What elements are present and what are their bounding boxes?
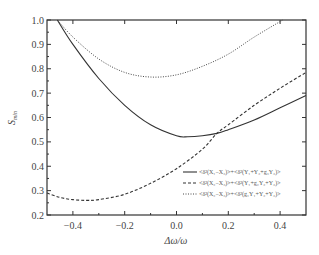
y-tick-label: 0.9 [32, 39, 45, 50]
y-tick-label: 0.6 [32, 112, 45, 123]
x-tick-label: 0.4 [274, 220, 287, 231]
axis-ticks: 0.20.30.40.50.60.70.80.91.0−0.4−0.20.00.… [32, 15, 307, 232]
series-line-solid [57, 20, 306, 137]
y-tick-label: 0.5 [32, 136, 45, 147]
y-tick-label: 0.2 [32, 210, 45, 221]
y-axis-label: Smin [6, 111, 18, 125]
x-axis-label: Δω/ω [164, 235, 188, 246]
y-tick-label: 0.3 [32, 185, 45, 196]
legend-label: <δ²(X₁−X₂)>+<δ²(Y₁+Y₂+g₃Y₃)> [199, 169, 281, 176]
x-tick-label: −0.2 [116, 220, 134, 231]
x-tick-label: 0.0 [170, 220, 183, 231]
y-axis-label-sub: min [12, 111, 18, 120]
svg-text:Smin: Smin [6, 111, 18, 125]
y-tick-label: 0.8 [32, 63, 45, 74]
legend: <δ²(X₁−X₂)>+<δ²(Y₁+Y₂+g₃Y₃)><δ²(X₂−X₃)>+… [183, 169, 281, 198]
legend-label: <δ²(X₂−X₃)>+<δ²(Y₁+g₂Y₂+Y₃)> [199, 180, 281, 187]
y-tick-label: 0.4 [32, 161, 45, 172]
x-tick-label: −0.4 [64, 220, 82, 231]
y-tick-label: 0.7 [32, 88, 45, 99]
legend-label: <δ²(X₂−X₃)>+<δ²(g₁Y₁+Y₂+Y₃)> [199, 191, 281, 198]
x-tick-label: 0.2 [222, 220, 235, 231]
y-tick-label: 1.0 [32, 15, 45, 26]
chart: 0.20.30.40.50.60.70.80.91.0−0.4−0.20.00.… [0, 0, 319, 255]
